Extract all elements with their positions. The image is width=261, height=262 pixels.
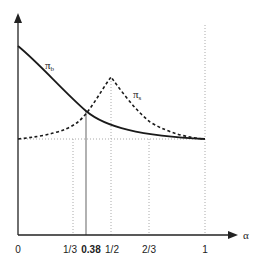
tick-one-third: 1/3 xyxy=(63,244,77,255)
tick-half: 1/2 xyxy=(105,244,119,255)
chart: α πb πs 0 1/3 0.38 1/2 2/3 1 xyxy=(0,0,261,262)
tick-038: 0.38 xyxy=(81,244,101,255)
tick-two-thirds: 2/3 xyxy=(142,244,156,255)
x-axis-arrow-icon xyxy=(228,231,238,239)
label-pi-s: πs xyxy=(133,88,142,102)
tick-0: 0 xyxy=(15,244,21,255)
label-pi-b: πb xyxy=(45,59,55,73)
x-axis-label: α xyxy=(243,229,249,241)
y-axis-arrow-icon xyxy=(14,13,22,23)
tick-1: 1 xyxy=(202,244,208,255)
